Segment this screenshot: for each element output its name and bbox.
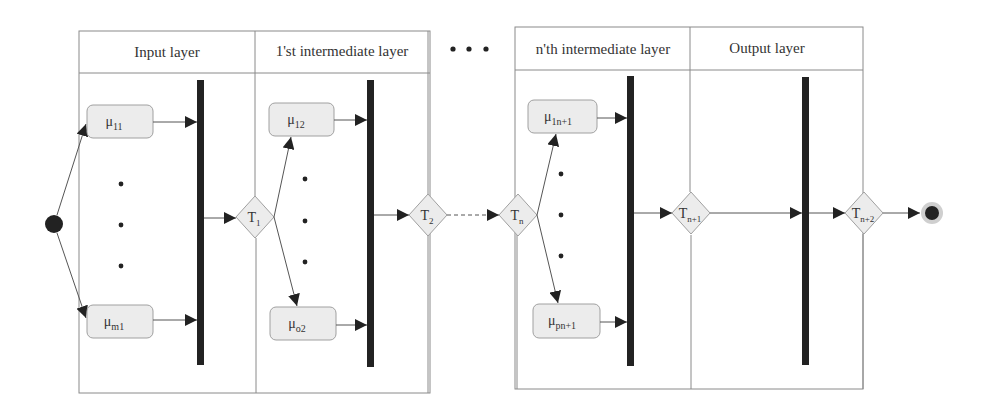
state-box-mu12: μ12 bbox=[269, 103, 334, 136]
state-box-mupn1: μpn+1 bbox=[533, 304, 600, 338]
lane-title-nth-intermediate: n'th intermediate layer bbox=[536, 41, 670, 57]
transition-tn-plus-1: Tn+1 bbox=[672, 192, 710, 234]
initial-node bbox=[45, 215, 63, 233]
sync-bar-output bbox=[802, 77, 809, 365]
lane-title-1st-intermediate: 1'st intermediate layer bbox=[276, 43, 409, 59]
lane-ellipsis bbox=[450, 46, 488, 51]
state-box-mu1n1: μ1n+1 bbox=[528, 100, 597, 133]
vertical-ellipsis-intermediate-1 bbox=[303, 177, 308, 265]
state-box-mu11: μ11 bbox=[87, 105, 153, 138]
transition-tn-plus-2: Tn+2 bbox=[845, 192, 883, 234]
transition-tn: Tn bbox=[499, 194, 537, 236]
layer-activity-diagram: Input layer 1'st intermediate layer n'th… bbox=[0, 0, 981, 411]
final-node bbox=[921, 202, 943, 224]
transition-t1: T1 bbox=[236, 196, 274, 238]
vertical-ellipsis-intermediate-n bbox=[559, 172, 564, 259]
lane-title-output: Output layer bbox=[729, 40, 804, 56]
sync-bar-intermediate-n bbox=[627, 76, 634, 366]
state-box-muo2: μo2 bbox=[270, 307, 336, 340]
lane-title-input: Input layer bbox=[134, 44, 199, 60]
sync-bar-input bbox=[197, 80, 204, 365]
state-box-mum1: μm1 bbox=[87, 305, 153, 338]
sync-bar-intermediate-1 bbox=[367, 80, 374, 367]
transition-t2: T2 bbox=[409, 194, 447, 236]
vertical-ellipsis-input bbox=[119, 182, 124, 269]
